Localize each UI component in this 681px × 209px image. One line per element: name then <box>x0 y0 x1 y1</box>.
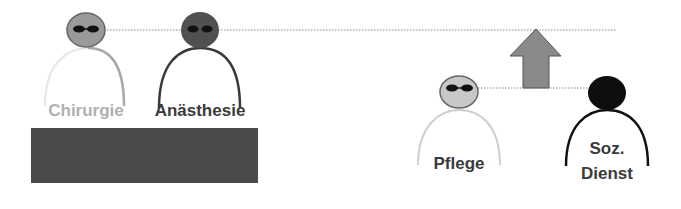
label-soz: Soz. <box>567 139 647 159</box>
head-icon <box>440 76 478 108</box>
label-anaesthesie: Anästhesie <box>150 101 250 121</box>
head-icon <box>67 13 105 47</box>
base-block <box>31 128 258 183</box>
label-chirurgie: Chirurgie <box>46 101 126 121</box>
figure-chirurgie <box>45 13 124 106</box>
head-icon <box>181 12 219 48</box>
up-arrow-icon <box>510 29 561 88</box>
body-arc <box>159 48 240 108</box>
body-arc-right <box>88 48 124 106</box>
head-icon <box>588 76 626 110</box>
figure-pflege <box>418 76 500 165</box>
label-pflege: Pflege <box>419 154 499 174</box>
label-dienst: Dienst <box>567 164 647 184</box>
figure-anaesthesie <box>159 12 240 108</box>
